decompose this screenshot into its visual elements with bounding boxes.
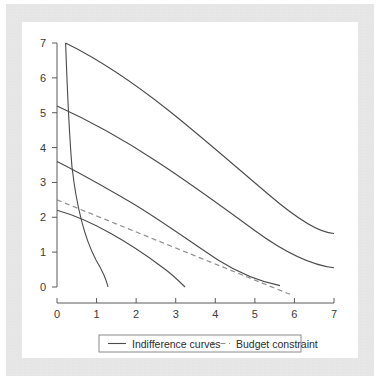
y-tick-label-7: 7 <box>40 37 46 49</box>
plot-area <box>57 43 334 294</box>
x-tick-label-5: 5 <box>252 308 258 320</box>
budget-constraint-line <box>57 200 290 294</box>
figure-plate: 7 6 5 4 3 2 1 0 <box>22 22 358 358</box>
x-tick-label-4: 4 <box>212 308 218 320</box>
x-tick-label-1: 1 <box>94 308 100 320</box>
indifference-curve-5 <box>66 43 334 234</box>
indifference-curve-chart: 7 6 5 4 3 2 1 0 <box>22 22 358 358</box>
chart-page: 7 6 5 4 3 2 1 0 <box>0 0 380 386</box>
indifference-curve-2 <box>57 210 185 287</box>
x-tick-label-7: 7 <box>331 308 337 320</box>
y-tick-label-3: 3 <box>40 176 46 188</box>
x-tick-label-0: 0 <box>54 308 60 320</box>
indifference-curve-1 <box>66 43 108 287</box>
x-tick-label-3: 3 <box>173 308 179 320</box>
y-tick-label-4: 4 <box>40 142 46 154</box>
y-tick-label-5: 5 <box>40 107 46 119</box>
x-axis: 0 1 2 3 4 5 6 7 <box>54 298 337 320</box>
legend-label-budget-constraint: Budget constraint <box>236 338 318 350</box>
indifference-curve-4 <box>57 106 334 268</box>
x-tick-label-2: 2 <box>133 308 139 320</box>
chart-legend: Indifference curves Budget constraint <box>99 335 318 352</box>
y-axis-tick-labels: 7 6 5 4 3 2 1 0 <box>40 37 46 293</box>
y-tick-label-1: 1 <box>40 246 46 258</box>
x-axis-tick-labels: 0 1 2 3 4 5 6 7 <box>54 308 337 320</box>
y-tick-label-2: 2 <box>40 211 46 223</box>
legend-label-indifference-curves: Indifference curves <box>132 338 221 350</box>
y-tick-label-0: 0 <box>40 281 46 293</box>
x-tick-label-6: 6 <box>291 308 297 320</box>
y-tick-label-6: 6 <box>40 72 46 84</box>
x-axis-ticks <box>57 298 334 303</box>
y-axis-ticks <box>52 43 57 287</box>
y-axis: 7 6 5 4 3 2 1 0 <box>40 37 57 293</box>
